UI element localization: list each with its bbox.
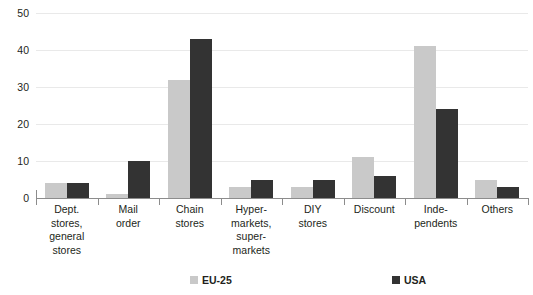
- x-axis-category-label-line: markets,: [221, 217, 283, 231]
- x-axis-category-label: Hyper-markets,super-markets: [221, 203, 283, 257]
- legend-item-eu-25: EU-25: [190, 274, 232, 286]
- bar-usa: [128, 161, 150, 198]
- gridline: [36, 13, 528, 14]
- x-axis-category-label-line: Inde-: [405, 203, 467, 217]
- bar-eu-25: [229, 187, 251, 198]
- x-axis-category-label-line: stores,: [36, 217, 98, 231]
- y-axis-tick-label: 0: [23, 193, 29, 203]
- y-axis-tick-label: 20: [17, 119, 29, 129]
- y-axis-tick-label: 10: [17, 156, 29, 166]
- bar-usa: [67, 183, 89, 198]
- x-axis-category-label: Dept.stores,generalstores: [36, 203, 98, 257]
- bar-eu-25: [414, 46, 436, 198]
- x-axis-category-label: Chainstores: [159, 203, 221, 230]
- legend-swatch-icon-eu-25: [190, 276, 198, 284]
- x-axis-category-label: Inde-pendents: [405, 203, 467, 230]
- x-axis-category-label-line: Chain: [159, 203, 221, 217]
- bar-usa: [190, 39, 212, 198]
- x-axis-category-label-line: super-: [221, 230, 283, 244]
- x-axis-category-label: Others: [467, 203, 529, 217]
- x-axis-tick: [528, 198, 529, 205]
- x-axis-category-label-line: order: [98, 217, 160, 231]
- gridline: [36, 87, 528, 88]
- legend-label-eu-25: EU-25: [202, 274, 232, 286]
- bar-eu-25: [475, 180, 497, 199]
- x-axis-category-label-line: general: [36, 230, 98, 244]
- x-axis-category-label-line: stores: [159, 217, 221, 231]
- x-axis-category-label-line: Dept.: [36, 203, 98, 217]
- x-axis-category-label-line: markets: [221, 244, 283, 258]
- legend-item-usa: USA: [392, 274, 426, 286]
- bar-usa: [497, 187, 519, 198]
- y-axis-labels: 01020304050: [0, 0, 34, 295]
- bar-eu-25: [168, 80, 190, 198]
- bar-eu-25: [352, 157, 374, 198]
- y-axis-tick-label: 40: [17, 45, 29, 55]
- x-axis-category-label: Discount: [344, 203, 406, 217]
- x-axis-category-label-line: Hyper-: [221, 203, 283, 217]
- y-axis-tick-label: 50: [17, 8, 29, 18]
- bar-eu-25: [291, 187, 313, 198]
- bar-eu-25: [45, 183, 67, 198]
- bar-usa: [374, 176, 396, 198]
- x-axis-category-label-line: stores: [282, 217, 344, 231]
- x-axis-category-label-line: pendents: [405, 217, 467, 231]
- legend-swatch-icon-usa: [392, 276, 400, 284]
- x-axis-category-label-line: DIY: [282, 203, 344, 217]
- x-axis-category-label-line: Discount: [344, 203, 406, 217]
- chart-legend: EU-25 USA: [0, 272, 533, 288]
- x-axis-category-label-line: stores: [36, 244, 98, 258]
- legend-label-usa: USA: [404, 274, 426, 286]
- gridline: [36, 50, 528, 51]
- y-axis-tick-label: 30: [17, 82, 29, 92]
- bar-usa: [251, 180, 273, 199]
- bar-usa: [436, 109, 458, 198]
- bar-usa: [313, 180, 335, 199]
- x-axis-category-label-line: Others: [467, 203, 529, 217]
- x-axis-category-label-line: Mail: [98, 203, 160, 217]
- bar-chart: 01020304050 Dept.stores,generalstoresMai…: [0, 0, 533, 295]
- x-axis-category-label: DIYstores: [282, 203, 344, 230]
- x-axis-category-label: Mailorder: [98, 203, 160, 230]
